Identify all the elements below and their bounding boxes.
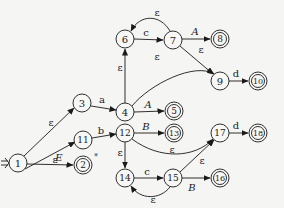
state-label-13: 13 bbox=[169, 129, 179, 138]
star-mark: * bbox=[94, 152, 98, 161]
edge-15-17 bbox=[180, 140, 214, 172]
edge-label-15-16: B bbox=[187, 182, 195, 193]
state-label-12: 12 bbox=[119, 128, 130, 138]
state-label-18: 18 bbox=[253, 129, 263, 138]
edge-1-3 bbox=[24, 108, 74, 156]
edge-label-15-14: ε bbox=[150, 194, 155, 205]
state-label-6: 6 bbox=[122, 34, 128, 45]
edge-label-6-7: c bbox=[143, 27, 149, 38]
state-label-1: 1 bbox=[15, 158, 21, 169]
edge-7-6 bbox=[131, 18, 170, 31]
state-label-15: 15 bbox=[167, 173, 179, 183]
state-label-8: 8 bbox=[217, 34, 223, 44]
state-label-14: 14 bbox=[119, 173, 131, 183]
state-label-9: 9 bbox=[217, 76, 223, 87]
state-label-10: 10 bbox=[253, 77, 263, 86]
nfa-graph: 1 2 3 4 5 6 7 8 9 10 11 12 13 14 15 16 1… bbox=[0, 0, 284, 208]
start-arrow-icon bbox=[1, 158, 9, 168]
edge-label-3-4: a bbox=[99, 94, 105, 105]
edge-label-4-6: ε bbox=[117, 62, 122, 73]
edge-label-12-14: ε bbox=[117, 147, 122, 158]
state-label-2: 2 bbox=[80, 160, 86, 170]
edge-label-11-12: b bbox=[98, 125, 104, 136]
edge-label-14-15: c bbox=[144, 166, 150, 177]
state-label-17: 17 bbox=[214, 128, 226, 138]
state-label-5: 5 bbox=[171, 106, 177, 116]
edge-label-7-8: A bbox=[190, 26, 198, 37]
state-label-11: 11 bbox=[77, 135, 88, 145]
state-label-3: 3 bbox=[79, 98, 85, 109]
state-label-4: 4 bbox=[122, 107, 128, 118]
edge-label-12-17: ε bbox=[169, 144, 174, 155]
edge-label-9-10: d bbox=[233, 68, 240, 79]
edge-label-7-6: ε bbox=[154, 7, 159, 18]
edge-label-4-9: ε bbox=[154, 51, 159, 62]
edge-label-7-9: ε bbox=[198, 44, 203, 55]
edge-label-17-18: d bbox=[233, 120, 240, 131]
edge-6-7 bbox=[134, 39, 163, 40]
edge-label-1-3: ε bbox=[48, 117, 53, 128]
nfa-diagram: 1 2 3 4 5 6 7 8 9 10 11 12 13 14 15 16 1… bbox=[0, 0, 284, 208]
edge-label-4-5: A bbox=[143, 99, 151, 110]
edge-label-15-17: ε bbox=[199, 155, 204, 166]
edge-7-9 bbox=[180, 46, 213, 74]
edge-4-5 bbox=[134, 111, 164, 112]
edge-3-4 bbox=[91, 106, 116, 110]
state-label-16: 16 bbox=[215, 174, 225, 183]
edge-label-1-11: ε bbox=[52, 154, 57, 165]
state-label-7: 7 bbox=[170, 35, 176, 46]
edge-label-12-13: B bbox=[141, 121, 149, 132]
